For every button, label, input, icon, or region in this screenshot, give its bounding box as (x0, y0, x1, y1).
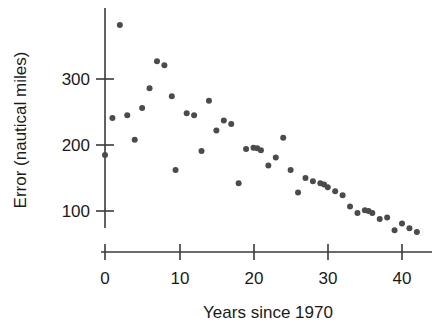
data-point (325, 184, 331, 190)
x-tick-label-20: 20 (245, 269, 264, 288)
y-axis-title: Error (nautical miles) (11, 52, 30, 209)
data-point (147, 85, 153, 91)
x-tick-label-30: 30 (319, 269, 338, 288)
data-point (154, 58, 160, 64)
data-point (109, 115, 115, 121)
data-point (288, 167, 294, 173)
data-point (191, 112, 197, 118)
data-point (184, 110, 190, 116)
data-point (347, 203, 353, 209)
data-point (236, 180, 242, 186)
data-point (199, 148, 205, 154)
x-tick-label-40: 40 (393, 269, 412, 288)
data-point (228, 121, 234, 127)
data-point (414, 229, 420, 235)
data-point (369, 210, 375, 216)
data-point (139, 105, 145, 111)
x-axis-title: Years since 1970 (203, 303, 333, 322)
x-tick-label-0: 0 (100, 269, 109, 288)
data-point (132, 137, 138, 143)
data-point (102, 152, 108, 158)
data-point (332, 188, 338, 194)
data-point (161, 62, 167, 68)
data-point (213, 127, 219, 133)
data-point (206, 98, 212, 104)
data-point (354, 210, 360, 216)
data-point (310, 178, 316, 184)
data-point (399, 221, 405, 227)
data-point (384, 215, 390, 221)
data-point (117, 22, 123, 28)
data-point (280, 135, 286, 141)
data-point (377, 216, 383, 222)
data-point (243, 146, 249, 152)
chart-svg: 300 200 100 0 10 20 30 40 Years since 19… (0, 0, 440, 329)
data-point (173, 167, 179, 173)
data-point (265, 162, 271, 168)
data-points-layer (102, 22, 420, 235)
data-point (295, 190, 301, 196)
data-point (273, 155, 279, 161)
data-point (406, 225, 412, 231)
data-point (169, 93, 175, 99)
data-point (258, 147, 264, 153)
y-tick-label-200: 200 (62, 136, 90, 155)
data-point (302, 175, 308, 181)
y-tick-label-100: 100 (62, 202, 90, 221)
scatter-plot-figure: 300 200 100 0 10 20 30 40 Years since 19… (0, 0, 440, 329)
data-point (392, 227, 398, 233)
data-point (340, 192, 346, 198)
data-point (221, 118, 227, 124)
y-tick-label-300: 300 (62, 70, 90, 89)
x-tick-label-10: 10 (171, 269, 190, 288)
data-point (124, 112, 130, 118)
